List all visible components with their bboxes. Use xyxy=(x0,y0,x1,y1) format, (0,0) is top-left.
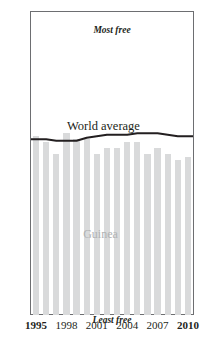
bar xyxy=(63,133,69,315)
world-average-label: World average xyxy=(67,119,140,134)
bar xyxy=(134,142,140,315)
x-axis: 199519982001200420072010 xyxy=(0,319,201,341)
bar xyxy=(43,142,49,315)
chart-title: Guinea xyxy=(36,0,196,1)
bar xyxy=(165,154,171,315)
freedom-index-chart: Guinea 020406080100 Most free Least free… xyxy=(0,0,201,345)
bar xyxy=(33,136,39,315)
bars-layer xyxy=(31,12,193,315)
x-axis-tick: 1995 xyxy=(25,319,47,331)
series-name-label: Guinea xyxy=(83,227,118,242)
y-axis: 020406080100 xyxy=(0,0,30,345)
bar xyxy=(154,148,160,315)
bar xyxy=(53,154,59,315)
x-axis-tick: 2001 xyxy=(86,319,108,331)
bar xyxy=(185,157,191,315)
bar xyxy=(144,154,150,315)
x-axis-tick: 1998 xyxy=(55,319,77,331)
bar xyxy=(175,160,181,315)
x-axis-tick: 2007 xyxy=(147,319,169,331)
x-axis-tick: 2010 xyxy=(177,319,199,331)
x-axis-tick: 2004 xyxy=(116,319,138,331)
bar xyxy=(73,139,79,315)
bar xyxy=(124,142,130,315)
